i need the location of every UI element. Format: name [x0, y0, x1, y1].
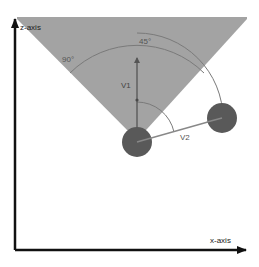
- diagram-canvas: z-axis x-axis 90° 45° V1 V2: [0, 0, 259, 267]
- angle-label-45: 45°: [139, 37, 151, 46]
- vector-v1-label: V1: [121, 81, 131, 90]
- x-axis-label: x-axis: [210, 236, 231, 245]
- angle-label-90: 90°: [62, 55, 74, 64]
- vector-v2-label: V2: [180, 133, 190, 142]
- z-axis-label: z-axis: [20, 23, 41, 32]
